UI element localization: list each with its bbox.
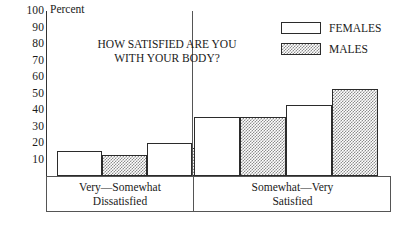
- y-axis-tick-80: 80: [2, 38, 44, 50]
- category-label-satisfied-line-2: Satisfied: [272, 194, 312, 208]
- y-axis-tick-60: 60: [2, 71, 44, 83]
- category-label-satisfied-line-1: Somewhat—Very: [252, 180, 334, 194]
- chart-title-line-2: WITH YOUR BODY?: [72, 51, 262, 65]
- legend-label-males: MALES: [329, 43, 368, 55]
- chart-legend: FEMALES MALES: [281, 19, 381, 61]
- y-axis-tick-90: 90: [2, 22, 44, 34]
- legend-item-females: FEMALES: [281, 19, 381, 36]
- category-label-dissatisfied-line-1: Very—Somewhat: [79, 180, 161, 194]
- chart-title: HOW SATISFIED ARE YOU WITH YOUR BODY?: [72, 37, 262, 65]
- chart-root: Percent 100908070605040302010 HOW SATISF…: [0, 0, 407, 226]
- y-axis-tick-100: 100: [2, 5, 44, 17]
- y-axis-tick-labels: 100908070605040302010: [0, 0, 44, 190]
- y-axis-tick-40: 40: [2, 104, 44, 116]
- bar-females-36: [194, 117, 240, 176]
- group-divider-line: [192, 11, 193, 177]
- bar-females-15: [57, 151, 102, 176]
- bar-females-20: [147, 143, 192, 176]
- bar-males-13: [102, 155, 147, 176]
- bar-males-36: [240, 117, 286, 176]
- chart-title-line-1: HOW SATISFIED ARE YOU: [72, 37, 262, 51]
- category-axis: Very—Somewhat Dissatisfied Somewhat—Very…: [46, 176, 391, 212]
- y-axis-tick-70: 70: [2, 55, 44, 67]
- legend-label-females: FEMALES: [329, 22, 381, 34]
- y-axis-tick-20: 20: [2, 137, 44, 149]
- y-axis-tick-10: 10: [2, 154, 44, 166]
- legend-item-males: MALES: [281, 40, 381, 57]
- category-label-dissatisfied: Very—Somewhat Dissatisfied: [47, 177, 194, 211]
- bar-females-43: [286, 105, 332, 176]
- legend-swatch-females-icon: [281, 22, 321, 34]
- legend-swatch-males-icon: [281, 43, 321, 55]
- category-label-dissatisfied-line-2: Dissatisfied: [93, 194, 147, 208]
- category-label-satisfied: Somewhat—Very Satisfied: [194, 177, 391, 211]
- y-axis-tick-50: 50: [2, 88, 44, 100]
- bar-males-53: [332, 89, 378, 176]
- y-axis-tick-30: 30: [2, 121, 44, 133]
